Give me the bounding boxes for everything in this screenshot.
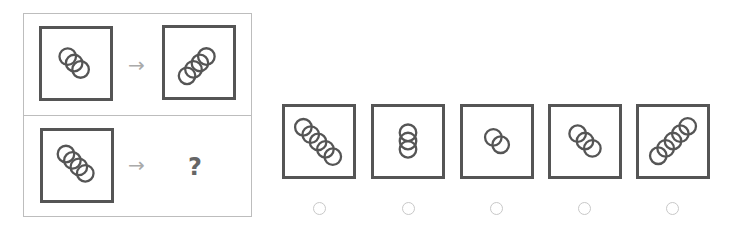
question-mark: ? bbox=[188, 153, 202, 181]
two-circles-diagonal-icon bbox=[463, 107, 531, 176]
option-b-radio[interactable] bbox=[402, 202, 415, 215]
row2-left-figure bbox=[40, 128, 114, 203]
option-e-figure[interactable] bbox=[636, 104, 710, 179]
three-circles-vertical-icon bbox=[374, 107, 442, 176]
option-c-radio[interactable] bbox=[490, 202, 503, 215]
three-circles-diagonal-icon bbox=[42, 29, 110, 98]
option-a-figure[interactable] bbox=[282, 104, 356, 179]
option-d-figure[interactable] bbox=[548, 104, 622, 179]
four-circles-diagonal-icon bbox=[43, 131, 111, 200]
arrow-icon: → bbox=[128, 55, 145, 75]
five-circles-diagonal-icon bbox=[285, 107, 353, 176]
four-circles-diagonal-icon bbox=[165, 28, 233, 97]
three-circles-diagonal-icon bbox=[551, 107, 619, 176]
row1-right-figure bbox=[162, 25, 236, 100]
option-a-radio[interactable] bbox=[313, 202, 326, 215]
panel-divider bbox=[23, 115, 252, 116]
row1-left-figure bbox=[39, 26, 113, 101]
five-circles-diagonal-icon bbox=[639, 107, 707, 176]
arrow-icon: → bbox=[128, 155, 145, 175]
option-d-radio[interactable] bbox=[578, 202, 591, 215]
option-e-radio[interactable] bbox=[666, 202, 679, 215]
option-c-figure[interactable] bbox=[460, 104, 534, 179]
option-b-figure[interactable] bbox=[371, 104, 445, 179]
